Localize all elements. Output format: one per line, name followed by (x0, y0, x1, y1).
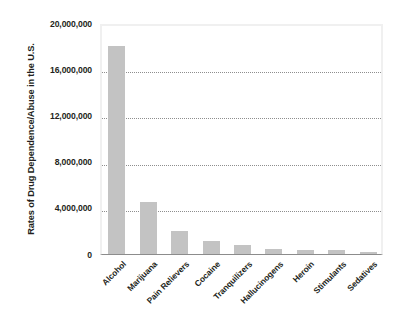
x-axis-tick-label: Heroin (291, 259, 316, 284)
x-axis-tick-label: Alcohol (99, 259, 127, 287)
bar-chart-figure: Rates of Drug Dependence/Abuse in the U.… (0, 0, 399, 320)
y-axis-tick-label: 8,000,000 (20, 157, 92, 167)
bar (171, 231, 188, 254)
y-axis-tick-label: 4,000,000 (20, 203, 92, 213)
bar (265, 249, 282, 254)
bar (297, 250, 314, 254)
bar (360, 252, 377, 254)
y-axis-tick-label: 16,000,000 (20, 65, 92, 75)
x-axis-tick-label: Cocaine (192, 259, 222, 289)
bars-layer (102, 26, 381, 254)
y-axis-tick-label: 12,000,000 (20, 111, 92, 121)
bar (203, 241, 220, 254)
bar (328, 250, 345, 254)
x-axis-tick-labels: AlcoholMarijuanaPain RelieversCocaineTra… (100, 255, 383, 320)
bar (234, 245, 251, 254)
x-axis-tick-label: Sedatives (345, 259, 379, 293)
x-axis-tick-label: Stimulants (311, 259, 348, 296)
y-axis-tick-label: 0 (20, 250, 92, 260)
plot-area (100, 24, 383, 255)
y-axis-tick-label: 20,000,000 (20, 19, 92, 29)
bar (140, 202, 157, 254)
bar (108, 46, 125, 254)
y-axis-tick-labels: 04,000,0008,000,00012,000,00016,000,0002… (20, 0, 96, 320)
